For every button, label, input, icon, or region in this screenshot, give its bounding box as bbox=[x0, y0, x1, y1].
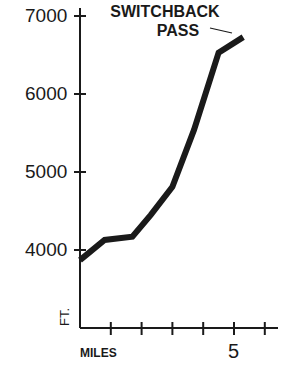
y-tick-label-6000: 6000 bbox=[25, 83, 67, 105]
y-tick-label-4000: 4000 bbox=[25, 239, 67, 261]
y-axis-label: FT. bbox=[57, 308, 72, 326]
annotation-switchback-pass: SWITCHBACK PASS bbox=[100, 2, 230, 40]
elevation-chart bbox=[0, 0, 291, 391]
y-tick-label-5000: 5000 bbox=[25, 161, 67, 183]
y-tick-label-7000: 7000 bbox=[25, 5, 67, 27]
annotation-line-2: PASS bbox=[100, 21, 230, 40]
x-tick-label-5: 5 bbox=[228, 340, 239, 363]
elevation-line bbox=[80, 37, 243, 260]
annotation-line-1: SWITCHBACK bbox=[100, 2, 230, 21]
x-axis-label: MILES bbox=[80, 346, 117, 360]
